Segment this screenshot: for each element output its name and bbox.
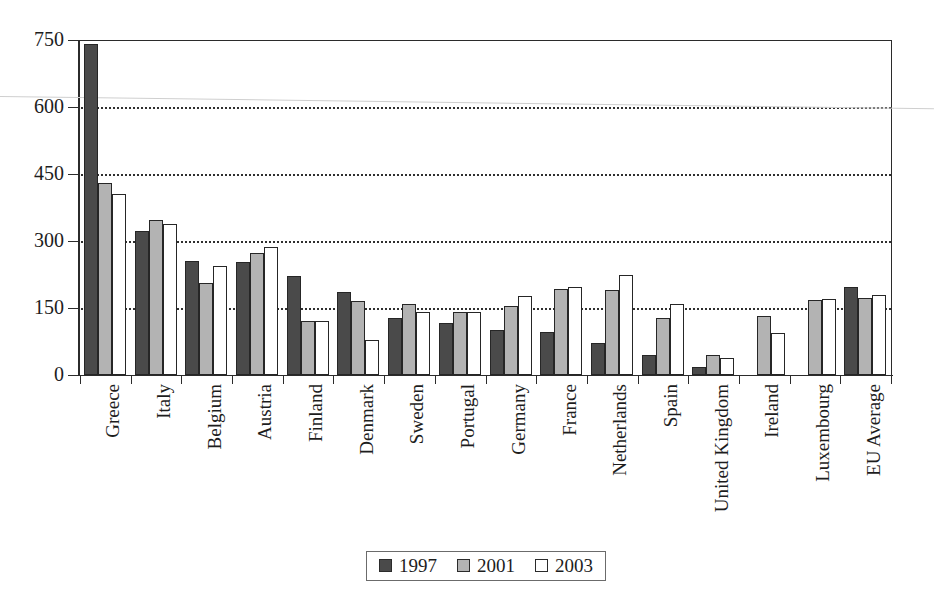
- bar-2001: [656, 318, 670, 375]
- legend-item[interactable]: 2003: [535, 556, 593, 575]
- x-tick-mark: [283, 375, 284, 384]
- legend-item[interactable]: 2001: [457, 556, 515, 575]
- bar-2001: [351, 301, 365, 375]
- legend-item[interactable]: 1997: [379, 556, 437, 575]
- bar-2003: [163, 224, 177, 375]
- x-tick-mark: [181, 375, 182, 384]
- bar-1997: [84, 44, 98, 375]
- legend-label-2001: 2001: [477, 556, 515, 575]
- bar-2003: [315, 321, 329, 375]
- bar-2003: [568, 287, 582, 375]
- x-axis-label: Ireland: [762, 384, 781, 438]
- y-tick-label: 750: [14, 29, 64, 49]
- bar-group: [486, 40, 537, 375]
- bar-2003: [720, 358, 734, 375]
- bar-1997: [135, 231, 149, 375]
- bar-group: [688, 40, 739, 375]
- bar-2001: [98, 183, 112, 375]
- bar-group: [790, 40, 841, 375]
- x-axis-label: Italy: [154, 384, 173, 419]
- bar-group: [536, 40, 587, 375]
- bar-2003: [365, 340, 379, 375]
- bar-2001: [504, 306, 518, 375]
- bar-2003: [518, 296, 532, 376]
- legend-label-2003: 2003: [555, 556, 593, 575]
- x-axis-label: Greece: [103, 384, 122, 438]
- x-tick-mark: [536, 375, 537, 384]
- bar-group: [435, 40, 486, 375]
- y-tick-label: 0: [14, 364, 64, 384]
- x-axis-label: Belgium: [204, 384, 223, 449]
- bar-1997: [642, 355, 656, 375]
- bar-1997: [540, 332, 554, 375]
- bar-group: [638, 40, 689, 375]
- bar-1997: [591, 343, 605, 375]
- bar-2003: [872, 295, 886, 375]
- bar-group: [384, 40, 435, 375]
- x-axis-label: Spain: [660, 384, 679, 427]
- bar-2001: [453, 312, 467, 375]
- bar-group: [181, 40, 232, 375]
- x-tick-mark: [80, 375, 81, 384]
- bar-2001: [858, 298, 872, 375]
- x-tick-mark: [232, 375, 233, 384]
- bar-1997: [236, 262, 250, 375]
- legend-swatch-2001-icon: [457, 559, 470, 572]
- bar-1997: [439, 323, 453, 375]
- bar-1997: [185, 261, 199, 375]
- x-axis-label: Austria: [255, 384, 274, 440]
- x-tick-mark: [790, 375, 791, 384]
- y-tick-label: 300: [14, 230, 64, 250]
- bar-group: [739, 40, 790, 375]
- bar-2001: [808, 300, 822, 375]
- bar-2001: [757, 316, 771, 375]
- bar-1997: [287, 276, 301, 375]
- chart-canvas: 0150300450600750 GreeceItalyBelgiumAustr…: [0, 0, 934, 614]
- x-tick-mark: [435, 375, 436, 384]
- x-tick-mark: [587, 375, 588, 384]
- bar-2003: [771, 333, 785, 375]
- bar-group: [232, 40, 283, 375]
- x-tick-mark: [739, 375, 740, 384]
- bar-1997: [337, 292, 351, 375]
- bar-2003: [670, 304, 684, 375]
- bar-group: [80, 40, 131, 375]
- y-tick-label: 150: [14, 297, 64, 317]
- bar-group: [587, 40, 638, 375]
- bar-1997: [692, 367, 706, 375]
- y-tick-label: 600: [14, 96, 64, 116]
- bar-group: [333, 40, 384, 375]
- x-tick-mark: [384, 375, 385, 384]
- x-tick-mark: [688, 375, 689, 384]
- y-tick-label: 450: [14, 163, 64, 183]
- bar-2001: [149, 220, 163, 375]
- bar-2003: [213, 266, 227, 375]
- x-tick-mark: [840, 375, 841, 384]
- x-axis-label: Finland: [306, 384, 325, 442]
- bar-group: [840, 40, 891, 375]
- bar-2003: [264, 247, 278, 375]
- x-axis-label: Luxembourg: [812, 384, 831, 482]
- bar-2001: [199, 283, 213, 375]
- x-axis-label: United Kingdom: [711, 384, 730, 512]
- x-axis-label: France: [559, 384, 578, 436]
- bar-1997: [490, 330, 504, 375]
- x-axis-label: Portugal: [458, 384, 477, 448]
- x-axis-label: EU Average: [863, 384, 882, 476]
- x-tick-mark: [131, 375, 132, 384]
- legend-label-1997: 1997: [399, 556, 437, 575]
- x-tick-mark: [638, 375, 639, 384]
- x-tick-mark: [333, 375, 334, 384]
- legend-swatch-1997-icon: [379, 559, 392, 572]
- x-axis-label: Denmark: [356, 384, 375, 455]
- legend-swatch-2003-icon: [535, 559, 548, 572]
- bar-2003: [112, 194, 126, 375]
- bar-2001: [301, 321, 315, 375]
- bar-2001: [706, 355, 720, 375]
- bar-groups: [80, 40, 891, 375]
- bar-1997: [844, 287, 858, 375]
- bar-2003: [416, 312, 430, 375]
- bar-2001: [605, 290, 619, 375]
- bar-group: [131, 40, 182, 375]
- bar-group: [283, 40, 334, 375]
